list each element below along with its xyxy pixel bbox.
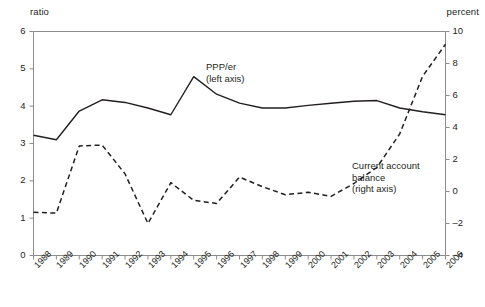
series-annotation-ca-line3: (right axis): [352, 183, 420, 195]
left-axis-tick-label: 6: [6, 25, 26, 36]
left-axis-tick-label: 3: [6, 137, 26, 148]
left-axis-tick-label: 2: [6, 174, 26, 185]
left-axis-tick-label: 1: [6, 212, 26, 223]
right-axis-tick-label: 8: [453, 57, 475, 68]
series-annotation-ppp-line2: (left axis): [206, 73, 245, 85]
left-axis-title: ratio: [30, 6, 49, 17]
series-line-ppp-er: [34, 77, 446, 140]
right-axis-tick-label: 10: [453, 25, 475, 36]
right-axis-tick-label: 2: [453, 153, 475, 164]
series-annotation-ppp-line1: PPP/er: [206, 61, 245, 73]
right-axis-tick-label: 4: [453, 121, 475, 132]
left-axis-tick-label: 5: [6, 62, 26, 73]
right-axis-tick-label: 0: [453, 185, 475, 196]
series-annotation-ca-line1: Current account: [352, 160, 420, 172]
series-annotation-ppp: PPP/er (left axis): [206, 61, 245, 84]
right-axis-tick-label: 6: [453, 89, 475, 100]
left-axis-tick-label: 0: [6, 249, 26, 260]
right-axis-title: percent: [447, 6, 479, 17]
series-annotation-current-account: Current account balance (right axis): [352, 160, 420, 195]
series-annotation-ca-line2: balance: [352, 172, 420, 184]
chart-figure: ratio percent 0123456 –4–20246810 198819…: [0, 0, 485, 307]
right-axis-tick-label: –2: [453, 217, 475, 228]
left-axis-tick-label: 4: [6, 100, 26, 111]
